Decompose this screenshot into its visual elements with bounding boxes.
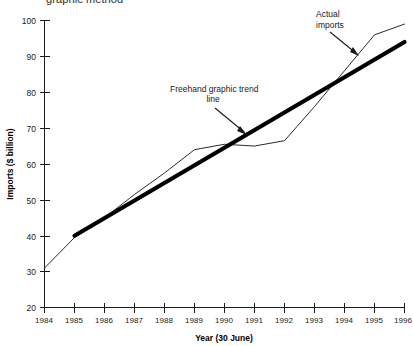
chart-container: graphic method 100 90 80 70 60 50 40 bbox=[0, 0, 413, 346]
x-tick-label: 1995 bbox=[365, 316, 383, 325]
annotation-actual-imports-line2: imports bbox=[316, 20, 344, 30]
y-tick-label: 90 bbox=[27, 52, 37, 62]
annotation-actual-imports-arrowhead bbox=[350, 47, 359, 56]
x-tick-label: 1994 bbox=[335, 316, 353, 325]
chart-plot-area: 100 90 80 70 60 50 40 30 20 bbox=[0, 0, 413, 346]
x-tick-label: 1992 bbox=[275, 316, 293, 325]
y-tick-label: 20 bbox=[27, 303, 37, 313]
y-tick-label: 80 bbox=[27, 88, 37, 98]
x-tick-label: 1987 bbox=[125, 316, 143, 325]
y-tick-label: 30 bbox=[27, 267, 37, 277]
y-axis-tick-labels: 100 90 80 70 60 50 40 30 20 bbox=[22, 16, 36, 313]
x-tick-label: 1989 bbox=[185, 316, 203, 325]
series-trend-line bbox=[75, 42, 405, 236]
y-tick-label: 50 bbox=[27, 196, 37, 206]
y-tick-label: 100 bbox=[22, 16, 36, 26]
x-tick-label: 1990 bbox=[215, 316, 233, 325]
annotation-trend-line: Freehand graphic trend line bbox=[170, 84, 259, 135]
annotation-actual-imports: Actual imports bbox=[316, 9, 359, 56]
x-axis-tick-labels: 1984 1985 1986 1987 1988 1989 1990 1991 … bbox=[35, 316, 412, 325]
x-tick-label: 1984 bbox=[35, 316, 53, 325]
annotation-trend-line1: Freehand graphic trend bbox=[170, 84, 259, 94]
y-tick-label: 40 bbox=[27, 232, 37, 242]
x-axis-title: Year (30 June) bbox=[195, 333, 253, 343]
x-tick-label: 1993 bbox=[305, 316, 323, 325]
x-tick-label: 1986 bbox=[95, 316, 113, 325]
annotation-actual-imports-line1: Actual bbox=[316, 9, 340, 19]
x-tick-label: 1988 bbox=[155, 316, 173, 325]
annotation-trend-line2: line bbox=[206, 94, 220, 104]
y-axis-title: Imports ($ billion) bbox=[5, 128, 15, 199]
x-tick-label: 1996 bbox=[394, 316, 412, 325]
x-tick-label: 1991 bbox=[245, 316, 263, 325]
y-tick-label: 60 bbox=[27, 160, 37, 170]
y-tick-label: 70 bbox=[27, 124, 37, 134]
x-tick-label: 1985 bbox=[65, 316, 83, 325]
